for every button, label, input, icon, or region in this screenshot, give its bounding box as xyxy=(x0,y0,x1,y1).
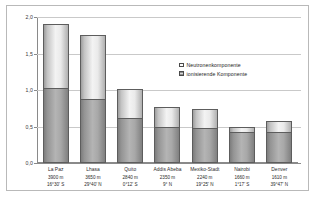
bar-column[interactable] xyxy=(112,17,149,163)
bar-segment-neutron[interactable] xyxy=(154,107,180,127)
x-label-latitude: 1°17' S xyxy=(224,181,261,188)
bar-segment-ionizing[interactable] xyxy=(154,127,180,163)
bar-column[interactable] xyxy=(75,17,112,163)
chart-legend: Neutronenkomponenteionisierende Komponen… xyxy=(179,62,247,79)
x-label-altitude: 2240 m xyxy=(187,174,224,181)
bar-segment-ionizing[interactable] xyxy=(192,128,218,163)
y-tick-label: 1,5 xyxy=(25,51,33,57)
x-label-city: Mexiko-Stadt xyxy=(187,166,224,174)
bar-segment-neutron[interactable] xyxy=(43,24,69,88)
x-label-city: Denver xyxy=(261,166,298,174)
x-label-altitude: 3650 m xyxy=(75,174,112,181)
bar-series-group xyxy=(37,17,298,163)
x-axis-label-group: Quito2840 m0°12' S xyxy=(112,166,149,193)
stacked-bar[interactable] xyxy=(266,121,292,163)
x-label-altitude: 3900 m xyxy=(37,174,74,181)
x-axis-label-group: Denver1610 m39°47' N xyxy=(261,166,298,193)
legend-item[interactable]: ionisierende Komponente xyxy=(179,71,247,77)
bar-column[interactable] xyxy=(37,17,74,163)
x-label-latitude: 16°30' S xyxy=(37,181,74,188)
bar-segment-neutron[interactable] xyxy=(266,121,292,132)
x-label-city: La Paz xyxy=(37,166,74,174)
x-axis-label-group: Lhasa3650 m29°40' N xyxy=(75,166,112,193)
legend-item[interactable]: Neutronenkomponente xyxy=(179,62,247,68)
bar-segment-ionizing[interactable] xyxy=(266,132,292,163)
legend-swatch-neutron xyxy=(179,63,184,68)
legend-swatch-ion xyxy=(179,71,184,76)
bar-column[interactable] xyxy=(149,17,186,163)
y-tick-label: 2,0 xyxy=(25,14,33,20)
x-axis-label-group: Mexiko-Stadt2240 m19°25' N xyxy=(187,166,224,193)
bar-segment-neutron[interactable] xyxy=(117,89,143,117)
x-label-city: Nairobi xyxy=(224,166,261,174)
chart-frame: effektive Jahresdosis, mSv 0,00,51,01,52… xyxy=(6,5,309,191)
x-label-latitude: 0°12' S xyxy=(112,181,149,188)
y-tick-label: 1,0 xyxy=(25,87,33,93)
bar-segment-ionizing[interactable] xyxy=(117,118,143,163)
stacked-bar[interactable] xyxy=(154,107,180,163)
x-axis-label-group: Nairobi1660 m1°17' S xyxy=(224,166,261,193)
x-label-altitude: 1610 m xyxy=(261,174,298,181)
y-tick-mark xyxy=(34,163,37,164)
legend-label: ionisierende Komponente xyxy=(187,71,248,77)
legend-label: Neutronenkomponente xyxy=(187,62,241,68)
stacked-bar[interactable] xyxy=(80,35,106,163)
x-label-city: Lhasa xyxy=(75,166,112,174)
x-label-altitude: 2350 m xyxy=(149,174,186,181)
x-label-latitude: 39°47' N xyxy=(261,181,298,188)
x-label-latitude: 9° N xyxy=(149,181,186,188)
bar-segment-ionizing[interactable] xyxy=(43,88,69,163)
x-label-altitude: 2840 m xyxy=(112,174,149,181)
stacked-bar[interactable] xyxy=(229,127,255,164)
y-tick-label: 0,5 xyxy=(25,124,33,130)
x-axis-label-group: Addis Abeba2350 m9° N xyxy=(149,166,186,193)
x-label-latitude: 29°40' N xyxy=(75,181,112,188)
bar-segment-neutron[interactable] xyxy=(192,109,218,128)
x-label-city: Quito xyxy=(112,166,149,174)
bar-column[interactable] xyxy=(187,17,224,163)
bar-column[interactable] xyxy=(224,17,261,163)
bar-segment-ionizing[interactable] xyxy=(229,132,255,163)
stacked-bar[interactable] xyxy=(43,24,69,163)
bar-segment-neutron[interactable] xyxy=(80,35,106,99)
gridline xyxy=(37,163,301,164)
stacked-bar[interactable] xyxy=(117,89,143,163)
plot-area: 0,00,51,01,52,0 xyxy=(37,17,298,163)
x-label-city: Addis Abeba xyxy=(149,166,186,174)
bar-column[interactable] xyxy=(261,17,298,163)
x-label-altitude: 1660 m xyxy=(224,174,261,181)
bar-segment-ionizing[interactable] xyxy=(80,99,106,163)
x-label-latitude: 19°25' N xyxy=(187,181,224,188)
x-axis-label-group: La Paz3900 m16°30' S xyxy=(37,166,74,193)
stacked-bar[interactable] xyxy=(192,109,218,163)
x-axis-labels: La Paz3900 m16°30' SLhasa3650 m29°40' NQ… xyxy=(37,166,298,193)
y-tick-label: 0,0 xyxy=(25,160,33,166)
